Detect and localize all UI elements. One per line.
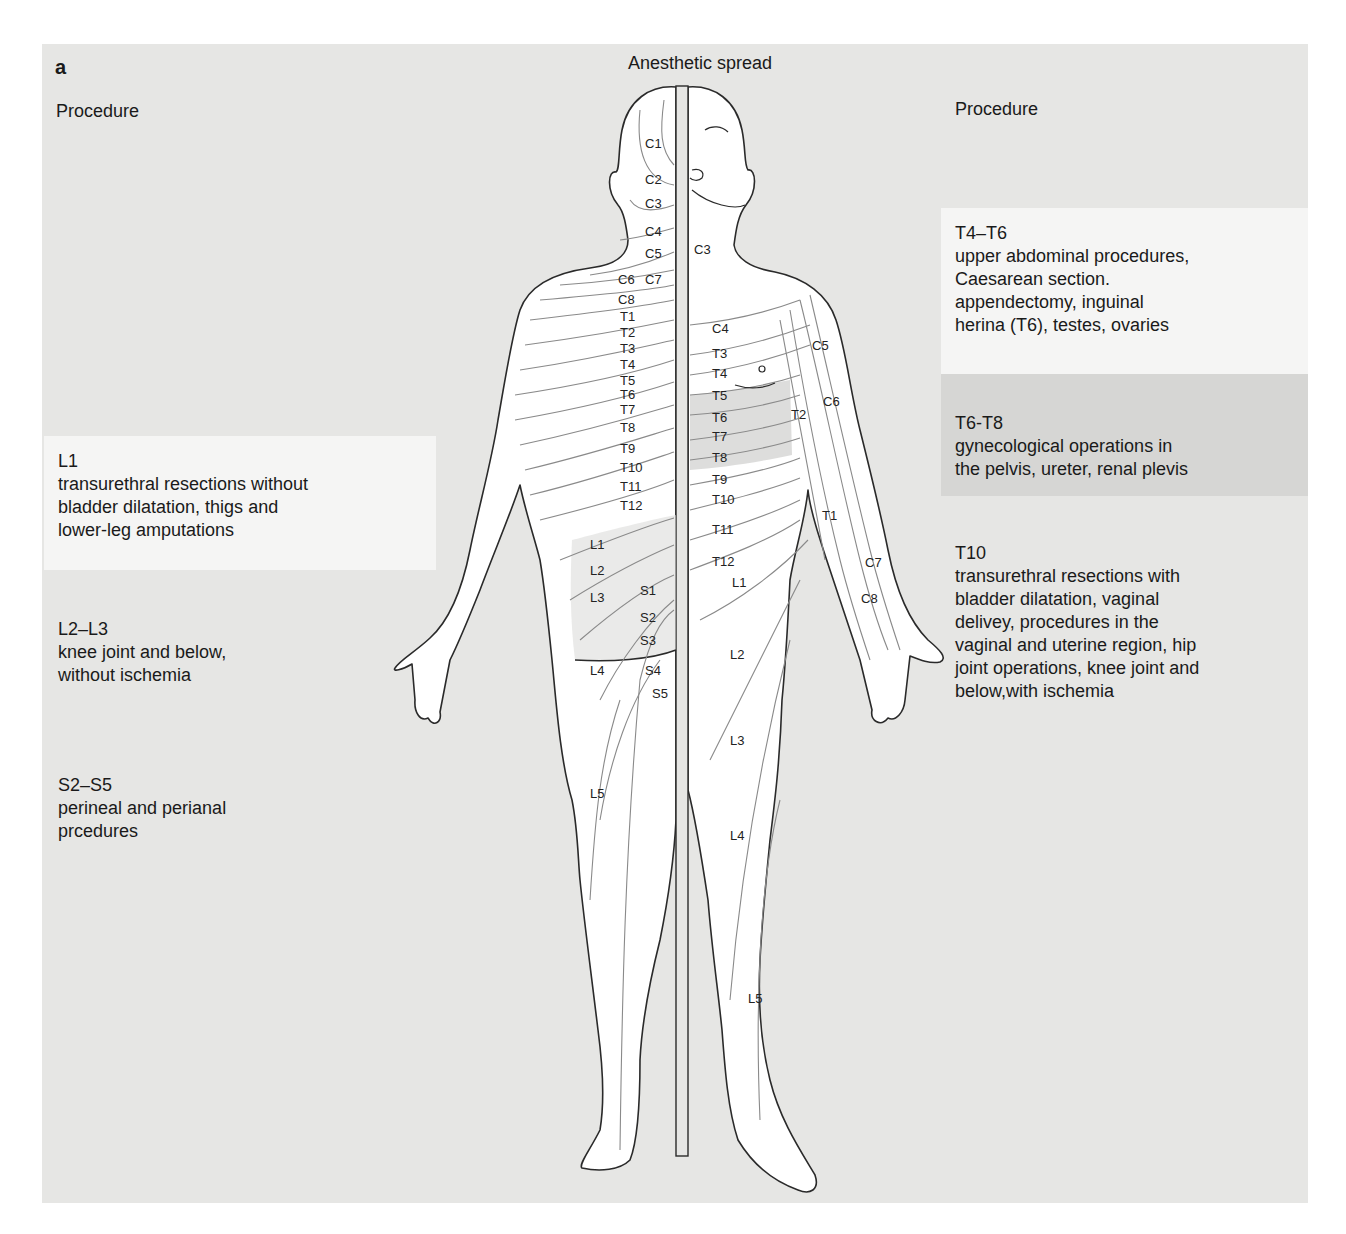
svg-text:C2: C2 (645, 172, 662, 187)
svg-text:T11: T11 (712, 522, 733, 537)
svg-text:T1: T1 (822, 508, 837, 523)
svg-text:C8: C8 (861, 591, 878, 606)
svg-text:T3: T3 (620, 341, 635, 356)
svg-text:T11: T11 (620, 479, 641, 494)
svg-text:L5: L5 (590, 786, 604, 801)
svg-text:T2: T2 (791, 407, 806, 422)
svg-text:T10: T10 (620, 460, 642, 475)
svg-text:L2: L2 (590, 563, 604, 578)
svg-text:T4: T4 (712, 366, 727, 381)
svg-text:T2: T2 (620, 325, 635, 340)
svg-text:T3: T3 (712, 346, 727, 361)
svg-text:L1: L1 (732, 575, 746, 590)
svg-text:C6: C6 (823, 394, 840, 409)
svg-text:L1: L1 (590, 537, 604, 552)
svg-text:C5: C5 (645, 246, 662, 261)
svg-text:C8: C8 (618, 292, 635, 307)
svg-text:C5: C5 (812, 338, 829, 353)
svg-text:T5: T5 (712, 388, 727, 403)
svg-text:C7: C7 (865, 555, 882, 570)
svg-text:T12: T12 (620, 498, 642, 513)
svg-text:T6: T6 (712, 410, 727, 425)
svg-text:L4: L4 (730, 828, 744, 843)
svg-text:C4: C4 (712, 321, 729, 336)
svg-text:L5: L5 (748, 991, 762, 1006)
svg-text:S5: S5 (652, 686, 668, 701)
svg-text:T12: T12 (712, 554, 734, 569)
svg-text:T1: T1 (620, 309, 635, 324)
svg-text:T9: T9 (620, 441, 635, 456)
svg-text:S4: S4 (645, 663, 661, 678)
svg-text:T8: T8 (620, 420, 635, 435)
svg-text:S2: S2 (640, 610, 656, 625)
svg-text:T9: T9 (712, 472, 727, 487)
svg-text:T8: T8 (712, 450, 727, 465)
svg-text:L3: L3 (730, 733, 744, 748)
svg-text:L3: L3 (590, 590, 604, 605)
highlight-region-sacral (571, 515, 676, 661)
svg-text:S3: S3 (640, 633, 656, 648)
midline-divider (676, 86, 688, 1156)
svg-text:L2: L2 (730, 647, 744, 662)
svg-text:T6: T6 (620, 387, 635, 402)
svg-text:L4: L4 (590, 663, 604, 678)
svg-text:T7: T7 (620, 402, 635, 417)
svg-text:T7: T7 (712, 429, 727, 444)
svg-text:C7: C7 (645, 272, 662, 287)
svg-text:C4: C4 (645, 224, 662, 239)
svg-text:C3: C3 (645, 196, 662, 211)
svg-text:C3: C3 (694, 242, 711, 257)
dermatome-body-illustration: C1 C2 C3 C4 C5 C6 C7 C8 T1 T2 T3 T4 T5 T… (0, 0, 1346, 1234)
svg-text:T4: T4 (620, 357, 635, 372)
svg-text:T5: T5 (620, 373, 635, 388)
svg-text:T10: T10 (712, 492, 734, 507)
svg-text:C6: C6 (618, 272, 635, 287)
svg-text:S1: S1 (640, 583, 656, 598)
svg-text:C1: C1 (645, 136, 662, 151)
